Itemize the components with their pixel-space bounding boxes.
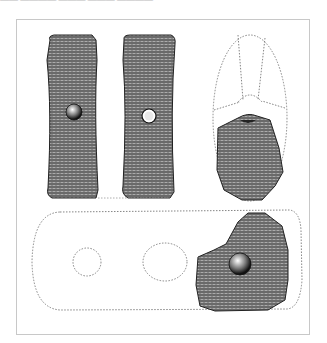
artifact-illustration (0, 0, 327, 343)
side-fragment (217, 114, 283, 200)
face-b-view (123, 35, 176, 198)
plan-fragment-hole (229, 253, 251, 275)
face-a-view (47, 35, 98, 198)
